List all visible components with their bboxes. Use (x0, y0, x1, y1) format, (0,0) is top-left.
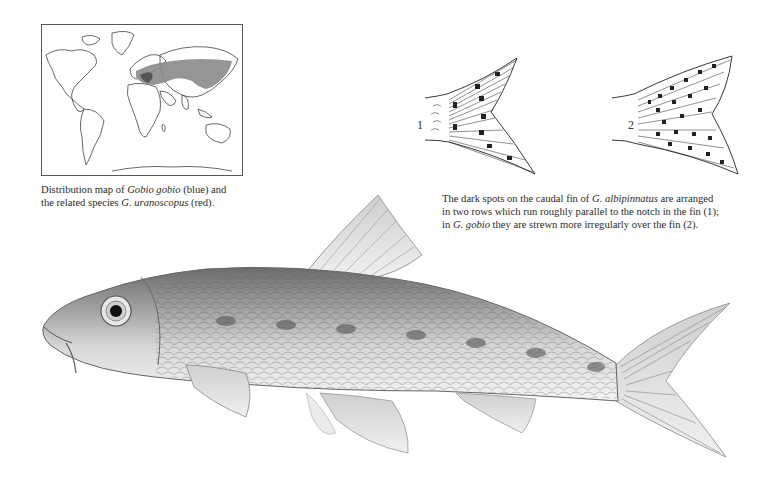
caudal-fin-albipinnatus-illustration (425, 50, 565, 180)
caudal-fin (616, 303, 730, 457)
pectoral-fin (186, 365, 250, 417)
gudgeon-fish-illustration (36, 195, 736, 460)
species-name: Gobio gobio (127, 184, 180, 195)
anal-fin (456, 393, 536, 433)
world-map-graphic (42, 25, 242, 175)
distribution-map (41, 24, 243, 176)
pelvic-fin (320, 393, 408, 453)
caudal-fin-gobio-illustration (612, 50, 752, 180)
fin-label-1: 1 (417, 118, 423, 133)
